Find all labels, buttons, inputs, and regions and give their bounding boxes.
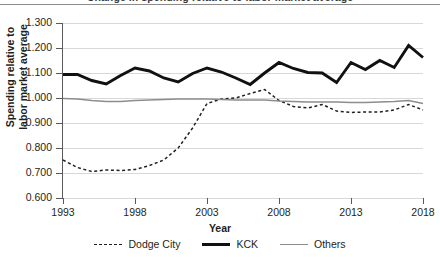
x-axis-label: Year <box>0 222 440 234</box>
x-tick-mark <box>423 198 424 204</box>
x-tick-label: 1993 <box>43 206 83 218</box>
x-tick-label: 1998 <box>115 206 155 218</box>
y-tick-mark <box>56 73 63 74</box>
x-tick-mark <box>351 198 352 204</box>
y-tick-mark <box>56 173 63 174</box>
y-tick-mark <box>56 23 63 24</box>
legend-item-others[interactable]: Others <box>280 238 346 250</box>
y-axis-label-line2: labor market average <box>17 24 29 130</box>
x-tick-label: 2018 <box>403 206 440 218</box>
y-tick-label: 0.600 <box>8 192 52 202</box>
y-axis-label: Spending relative to labor market averag… <box>4 2 30 152</box>
y-tick-mark <box>56 123 63 124</box>
gridline <box>63 198 423 199</box>
legend-swatch-icon <box>94 244 122 245</box>
legend-label: Dodge City <box>128 238 180 250</box>
y-tick-mark <box>56 48 63 49</box>
x-tick-mark <box>207 198 208 204</box>
y-tick-label: 0.700 <box>8 167 52 177</box>
x-tick-label: 2013 <box>331 206 371 218</box>
x-tick-label: 2008 <box>259 206 299 218</box>
chart-title-cropped: Change in spending relative to labor mar… <box>0 0 440 3</box>
legend-item-kck[interactable]: KCK <box>202 238 258 250</box>
legend-label: Others <box>314 238 346 250</box>
series-line-others <box>63 99 423 104</box>
y-tick-mark <box>56 98 63 99</box>
y-tick-mark <box>56 148 63 149</box>
legend-item-dodge-city[interactable]: Dodge City <box>94 238 180 250</box>
series-line-kck <box>63 46 423 85</box>
x-tick-mark <box>279 198 280 204</box>
chart-container: Change in spending relative to labor mar… <box>0 0 440 257</box>
chart-legend: Dodge CityKCKOthers <box>0 238 440 250</box>
y-axis-label-line1: Spending relative to <box>4 27 16 127</box>
y-tick-mark <box>56 198 63 199</box>
x-tick-mark <box>63 198 64 204</box>
series-lines <box>63 23 423 198</box>
x-tick-label: 2003 <box>187 206 227 218</box>
x-tick-mark <box>135 198 136 204</box>
plot-area <box>63 23 423 198</box>
legend-swatch-icon <box>202 243 230 246</box>
legend-swatch-icon <box>280 244 308 245</box>
top-divider <box>0 4 440 5</box>
legend-label: KCK <box>236 238 258 250</box>
